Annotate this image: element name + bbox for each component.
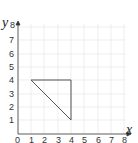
svg-text:2: 2 [9,102,14,112]
svg-text:5: 5 [9,62,14,72]
svg-text:6: 6 [9,49,14,59]
coordinate-plane: 0 1 2 3 4 5 6 7 8 1 2 3 4 5 6 7 8 y x [0,0,138,143]
svg-text:3: 3 [56,135,61,143]
svg-text:1: 1 [9,115,14,125]
svg-text:6: 6 [96,135,101,143]
svg-text:7: 7 [109,135,114,143]
axes [16,21,131,136]
y-axis-label: y [0,15,9,30]
y-tick-labels: 1 2 3 4 5 6 7 8 [9,20,15,125]
triangle [31,80,71,120]
svg-text:1: 1 [29,135,34,143]
svg-text:2: 2 [42,135,47,143]
svg-text:7: 7 [9,35,14,45]
svg-text:4: 4 [69,135,74,143]
y-axis-arrow-icon [16,21,20,25]
grid [18,24,126,134]
svg-text:5: 5 [82,135,87,143]
svg-text:4: 4 [9,75,14,85]
svg-text:8: 8 [10,20,15,30]
x-tick-labels: 0 1 2 3 4 5 6 7 8 [15,135,127,143]
svg-text:3: 3 [9,89,14,99]
x-axis-label: x [125,122,133,137]
svg-text:0: 0 [15,135,20,143]
